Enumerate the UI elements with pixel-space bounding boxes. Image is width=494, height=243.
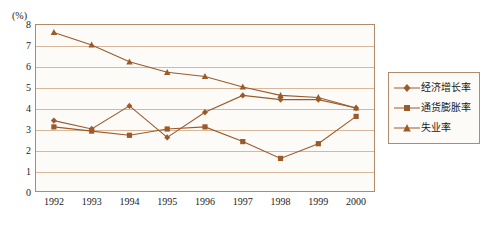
chart-legend: 经济增长率 通货膨胀率 失业率 <box>388 72 480 144</box>
data-point-marker <box>51 117 57 123</box>
y-axis-label: 0 <box>9 187 31 198</box>
series-line <box>54 95 356 137</box>
legend-item-2: 失业率 <box>393 118 475 138</box>
data-point-marker <box>202 109 208 115</box>
y-axis-label: 3 <box>9 124 31 135</box>
data-point-marker <box>51 124 56 129</box>
data-point-marker <box>165 126 170 131</box>
x-axis-label: 1999 <box>298 196 338 207</box>
y-axis-label: 2 <box>9 145 31 156</box>
series-line <box>54 116 356 158</box>
data-point-marker <box>51 29 57 35</box>
series-line <box>54 32 356 108</box>
square-marker-icon <box>393 102 421 114</box>
y-axis-label: 6 <box>9 61 31 72</box>
legend-label-0: 经济增长率 <box>421 82 471 94</box>
x-axis-label: 1997 <box>223 196 263 207</box>
triangle-marker-icon <box>393 122 421 134</box>
data-point-marker <box>127 133 132 138</box>
data-point-marker <box>354 114 359 119</box>
x-axis-label: 1996 <box>185 196 225 207</box>
x-axis-label: 1994 <box>109 196 149 207</box>
y-axis-label: 7 <box>9 40 31 51</box>
x-axis-label: 1995 <box>147 196 187 207</box>
x-axis-label: 1993 <box>72 196 112 207</box>
data-point-marker <box>240 92 246 98</box>
y-axis-label: 4 <box>9 103 31 114</box>
data-point-marker <box>240 139 245 144</box>
series-lines <box>35 24 375 192</box>
y-axis-label: 5 <box>9 82 31 93</box>
y-axis-label: 8 <box>9 19 31 30</box>
x-axis-label: 2000 <box>336 196 376 207</box>
data-point-marker <box>278 156 283 161</box>
x-axis-label: 1998 <box>261 196 301 207</box>
data-point-marker <box>316 141 321 146</box>
legend-label-2: 失业率 <box>421 122 451 134</box>
legend-item-0: 经济增长率 <box>393 78 475 98</box>
legend-item-1: 通货膨胀率 <box>393 98 475 118</box>
x-axis-label: 1992 <box>34 196 74 207</box>
diamond-marker-icon <box>393 82 421 94</box>
chart-root: (%) 012345678 19921993199419951996199719… <box>0 0 494 243</box>
data-point-marker <box>89 129 94 134</box>
y-axis-label: 1 <box>9 166 31 177</box>
legend-label-1: 通货膨胀率 <box>421 102 471 114</box>
data-point-marker <box>202 124 207 129</box>
